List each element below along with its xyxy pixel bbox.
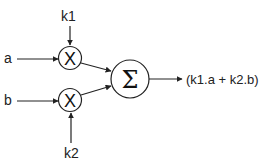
mult1-to-sum-arrow <box>81 63 111 71</box>
k1-label: k1 <box>61 8 76 24</box>
k2-label: k2 <box>64 145 79 161</box>
a-label: a <box>4 50 12 66</box>
weighted-sum-diagram: k1 a X b X k2 Σ (k1.a + k2.b) <box>0 0 269 163</box>
mult2-to-sum-arrow <box>81 86 111 95</box>
output-expression: (k1.a + k2.b) <box>186 72 259 87</box>
b-label: b <box>4 92 12 108</box>
multiply-icon-1: X <box>64 49 76 69</box>
multiply-icon-2: X <box>64 91 76 111</box>
sigma-icon: Σ <box>122 66 139 94</box>
